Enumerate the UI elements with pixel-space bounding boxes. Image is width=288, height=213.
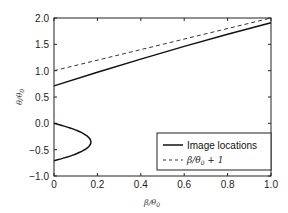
y-tick-label: −1.0: [29, 171, 49, 182]
x-tick-label: 0.6: [177, 179, 191, 190]
x-tick-label: 1.0: [264, 179, 278, 190]
x-tick-label: 0.2: [90, 179, 104, 190]
y-tick-label: 1.5: [35, 39, 49, 50]
y-tick-label: 2.0: [35, 13, 49, 24]
y-tick-label: 0.0: [35, 118, 49, 129]
x-tick-label: 0.8: [221, 179, 235, 190]
x-tick-label: 0: [51, 179, 57, 190]
legend: Image locations β/θ0 + 1: [157, 133, 271, 170]
x-tick-label: 0.4: [134, 179, 148, 190]
series-beta-plus-one: [54, 18, 271, 71]
chart: 00.20.40.60.81.0−1.0−0.50.00.51.01.52.0 …: [0, 0, 288, 213]
series-image-locations-lower: [54, 123, 91, 160]
y-tick-label: 0.5: [35, 92, 49, 103]
legend-label-image-locations: Image locations: [187, 140, 257, 151]
x-axis-label: β/θ0: [143, 198, 160, 208]
y-axis-label: θ/θ0: [15, 89, 25, 105]
series-image-locations-upper: [54, 23, 271, 86]
y-tick-label: −0.5: [29, 145, 49, 156]
y-tick-label: 1.0: [35, 66, 49, 77]
legend-label-dashed: β/θ0 + 1: [186, 155, 223, 166]
